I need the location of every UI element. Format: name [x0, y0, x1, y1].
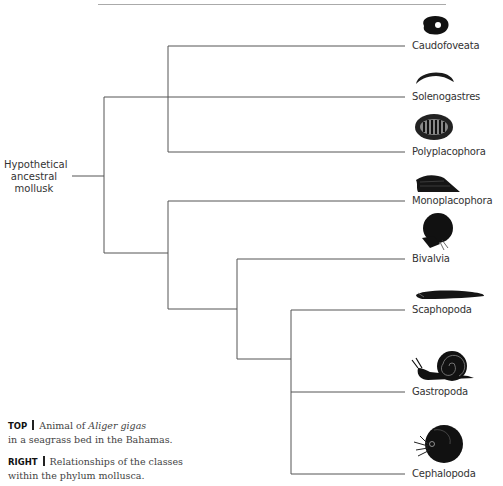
root-label: Hypotheticalancestralmollusk [4, 159, 64, 195]
class-label-monoplacophora: Monoplacophora [412, 195, 492, 206]
caption-right: RIGHTRelationships of the classeswithin … [8, 455, 183, 482]
class-label-bivalvia: Bivalvia [412, 253, 450, 264]
caption-divider [32, 420, 34, 430]
species-name: Aliger gigas [88, 420, 146, 431]
nautilus-icon [412, 422, 464, 468]
clam-icon [416, 212, 454, 254]
class-label-polyplacophora: Polyplacophora [412, 146, 486, 157]
class-label-solenogastres: Solenogastres [412, 91, 480, 102]
tusk-shell-icon [414, 288, 486, 302]
class-label-scaphopoda: Scaphopoda [412, 304, 472, 315]
class-label-caudofoveata: Caudofoveata [412, 40, 479, 51]
caption-right-tag: RIGHT [8, 457, 38, 467]
class-label-cephalopoda: Cephalopoda [412, 468, 476, 479]
solenogastres-worm-icon [414, 66, 456, 86]
caption-divider [43, 456, 45, 466]
caudofoveata-worm-icon [418, 14, 452, 38]
caption-top: TOPAnimal of Aliger gigas in a seagrass … [8, 419, 173, 446]
caption-top-tag: TOP [8, 421, 27, 431]
snail-icon [408, 350, 482, 384]
monoplacophoran-icon [414, 172, 462, 194]
chiton-icon [414, 113, 454, 141]
class-label-gastropoda: Gastropoda [412, 386, 468, 397]
